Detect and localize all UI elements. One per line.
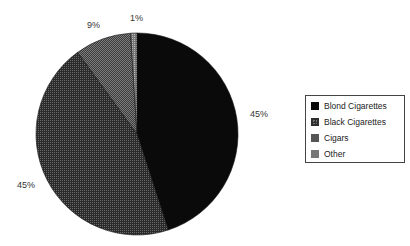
legend-label: Cigars	[324, 133, 349, 143]
legend-label: Other	[324, 149, 345, 159]
label-blond-cigarettes: 45%	[250, 109, 268, 119]
legend-item-other: Other	[311, 149, 345, 159]
legend-label: Blond Cigarettes	[324, 101, 387, 111]
legend-item-cigars: Cigars	[311, 133, 349, 143]
legend-swatch-other	[311, 150, 319, 158]
legend: Blond Cigarettes Black Cigarettes Cigars…	[305, 95, 405, 163]
legend-swatch-black	[311, 118, 319, 126]
pie-slices	[36, 33, 238, 235]
legend-swatch-cigars	[311, 134, 319, 142]
label-cigars: 9%	[87, 20, 100, 30]
legend-item-black-cigarettes: Black Cigarettes	[311, 117, 386, 127]
label-black-cigarettes: 45%	[17, 180, 35, 190]
legend-swatch-blond	[311, 102, 319, 110]
legend-item-blond-cigarettes: Blond Cigarettes	[311, 101, 387, 111]
legend-label: Black Cigarettes	[324, 117, 386, 127]
label-other: 1%	[130, 13, 143, 23]
